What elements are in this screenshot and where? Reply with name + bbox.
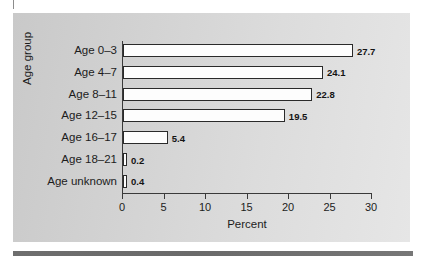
category-label: Age 0–3 <box>74 44 117 56</box>
x-axis-tick <box>288 194 289 199</box>
bar <box>123 153 127 166</box>
x-axis-tick-label: 25 <box>323 201 335 214</box>
bar-row: Age 18–210.2 <box>13 150 410 170</box>
category-label: Age 16–17 <box>61 131 117 143</box>
chart-figure-panel: 051015202530 Age 0–327.7Age 4–724.1Age 8… <box>13 13 410 242</box>
x-axis-tick <box>122 194 123 199</box>
category-label: Age 12–15 <box>61 109 117 121</box>
crop-mark-tick <box>13 0 14 9</box>
bar-row: Age 16–175.4 <box>13 128 410 148</box>
x-axis-tick-label: 15 <box>240 201 252 214</box>
bar-value-label: 27.7 <box>357 46 376 57</box>
plot-area: 051015202530 Age 0–327.7Age 4–724.1Age 8… <box>13 13 410 242</box>
category-label: Age 4–7 <box>74 66 117 78</box>
bar-value-label: 19.5 <box>289 111 308 122</box>
bar-row: Age 0–327.7 <box>13 41 410 61</box>
bar-value-label: 0.2 <box>131 155 144 166</box>
bar-row: Age 12–1519.5 <box>13 106 410 126</box>
bar-value-label: 0.4 <box>131 176 144 187</box>
x-axis-title: Percent <box>122 218 372 230</box>
category-label: Age 18–21 <box>61 153 117 165</box>
x-axis-tick-label: 0 <box>119 201 125 214</box>
x-axis-tick <box>330 194 331 199</box>
y-axis-title: Age group <box>21 32 33 85</box>
bar <box>123 88 312 101</box>
bar <box>123 175 127 188</box>
bar <box>123 131 168 144</box>
bar-row: Age 4–724.1 <box>13 63 410 83</box>
x-axis-tick-label: 10 <box>199 201 211 214</box>
bar-row: Age 8–1122.8 <box>13 85 410 105</box>
bar-value-label: 5.4 <box>172 133 185 144</box>
category-label: Age unknown <box>47 175 117 187</box>
bar <box>123 109 285 122</box>
bar-value-label: 24.1 <box>327 67 346 78</box>
bar <box>123 66 323 79</box>
x-axis-tick <box>371 194 372 199</box>
bar-row: Age unknown0.4 <box>13 172 410 192</box>
bottom-divider-rule <box>13 251 413 256</box>
x-axis-tick-label: 30 <box>365 201 377 214</box>
x-axis-tick <box>205 194 206 199</box>
x-axis-tick <box>247 194 248 199</box>
x-axis-tick <box>164 194 165 199</box>
x-axis-tick-label: 5 <box>160 201 166 214</box>
bar <box>123 44 353 57</box>
category-label: Age 8–11 <box>69 88 117 100</box>
x-axis-tick-label: 20 <box>282 201 294 214</box>
bar-value-label: 22.8 <box>316 89 335 100</box>
